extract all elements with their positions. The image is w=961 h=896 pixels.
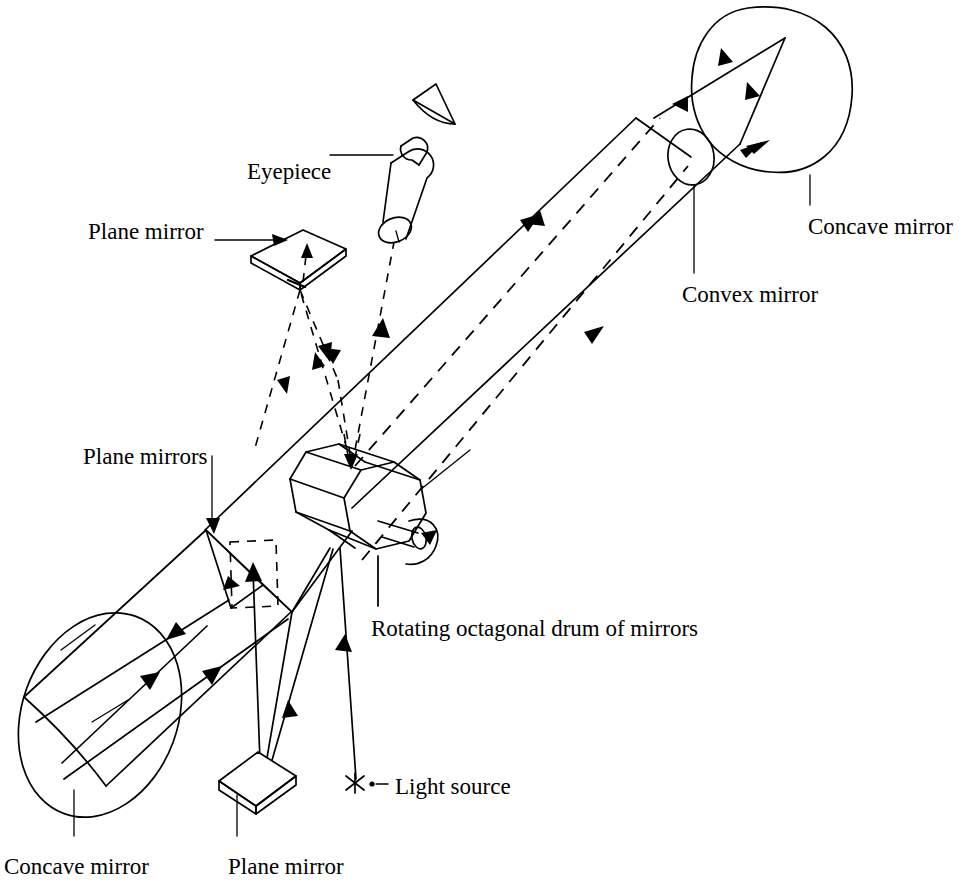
plane-mirrors-pair [206,530,292,612]
label-concave-mirror-bottom-left: Concave mirror [4,855,149,878]
rotation-direction-arrow [406,519,438,564]
ray-outgoing-upper [352,38,785,508]
rays-source-and-lower-mirror [245,531,356,789]
label-plane-mirrors: Plane mirrors [83,445,208,468]
label-light-source: Light source [395,775,511,798]
plane-mirror-lower [219,752,296,814]
ray-return-dashed-upper [355,118,660,466]
label-plane-mirror-top: Plane mirror [88,220,204,243]
light-source-star-icon [346,773,375,793]
ray-dashed-eyepiece [255,242,394,466]
diagram-canvas: Eyepiece Plane mirror Concave mirror Con… [0,0,961,896]
label-plane-mirror-bottom: Plane mirror [228,855,344,878]
label-convex-mirror: Convex mirror [682,283,818,306]
leader-lines [74,155,810,836]
label-rotating-drum: Rotating octagonal drum of mirrors [371,617,698,640]
plane-mirror-upper [251,230,346,290]
label-eyepiece: Eyepiece [247,160,331,183]
eyepiece [375,137,434,247]
observer-eye-icon [413,84,455,124]
concave-mirror-distant [692,7,853,172]
label-concave-mirror-top-right: Concave mirror [808,215,953,238]
